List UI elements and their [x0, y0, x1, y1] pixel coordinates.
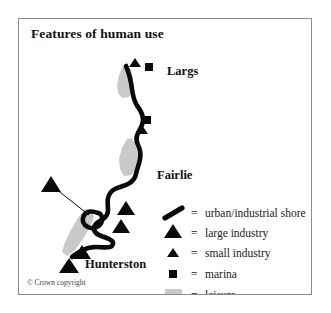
map-canvas: Largs Fairlie Hunterston = urban/industr…: [19, 19, 311, 294]
figure-frame: Features of human use: [18, 18, 312, 295]
legend-item-large-industry[interactable]: = large industry: [164, 224, 269, 240]
place-label-largs: Largs: [167, 64, 198, 78]
small-industry-marker: [129, 58, 141, 67]
legend-item-marina[interactable]: = marina: [169, 268, 237, 280]
large-triangle-swatch-icon: [164, 224, 182, 238]
copyright-notice: © Crown copyright: [27, 278, 87, 287]
legend-equals: =: [191, 268, 198, 280]
legend-equals: =: [191, 289, 198, 294]
large-industry-marker: [41, 176, 61, 192]
legend-equals: =: [191, 247, 198, 259]
legend-item-urban-industrial-shore[interactable]: = urban/industrial shore: [165, 207, 306, 219]
marina-marker: [143, 116, 151, 124]
large-industry-marker: [117, 201, 135, 215]
legend-equals: =: [191, 227, 198, 239]
legend-label: small industry: [205, 247, 271, 260]
marina-marker: [145, 63, 153, 71]
legend-label: marina: [205, 268, 237, 280]
small-triangle-swatch-icon: [167, 248, 179, 257]
legend-item-leisure[interactable]: = leisure: [165, 289, 236, 294]
legend-label: urban/industrial shore: [205, 207, 306, 219]
leader-line-hunterston-terminal: [56, 189, 89, 215]
legend-label: large industry: [205, 227, 269, 240]
square-swatch-icon: [169, 270, 177, 278]
leisure-swatch-icon: [165, 289, 182, 294]
place-labels: Largs Fairlie Hunterston: [85, 64, 198, 271]
place-label-hunterston: Hunterston: [85, 257, 146, 271]
legend: = urban/industrial shore = large industr…: [164, 207, 306, 294]
legend-label: leisure: [205, 289, 236, 294]
large-industry-marker: [59, 258, 79, 273]
place-label-fairlie: Fairlie: [157, 168, 193, 182]
shore-swatch-icon: [165, 208, 182, 218]
large-industry-marker: [112, 219, 130, 233]
figure-page: Features of human use: [0, 0, 331, 313]
legend-item-small-industry[interactable]: = small industry: [167, 247, 271, 260]
legend-equals: =: [191, 207, 198, 219]
